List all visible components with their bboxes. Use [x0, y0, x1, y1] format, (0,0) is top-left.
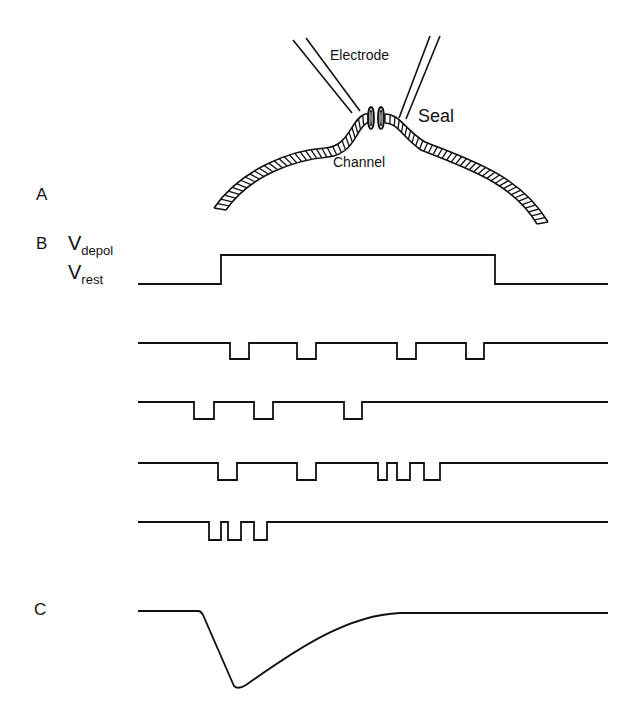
membrane-hatch-line	[241, 180, 251, 184]
membrane-hatch-line	[245, 177, 255, 182]
membrane-hatch-line	[259, 168, 268, 174]
membrane-hatch-line	[398, 120, 399, 129]
membrane-hatch-line	[487, 172, 495, 178]
v-depol-main: V	[68, 232, 81, 254]
membrane-hatch-line	[250, 174, 260, 179]
membrane-hatch-line	[474, 165, 481, 172]
membrane-hatch-line	[534, 218, 545, 220]
membrane-hatch-line	[217, 204, 229, 206]
membrane-hatch-line	[478, 167, 486, 174]
membrane-hatch-line	[284, 157, 292, 165]
channel-trace-4	[138, 522, 608, 540]
channel-trace-2	[138, 402, 608, 419]
membrane-hatch-line	[447, 153, 452, 161]
membrane-hatch-line	[394, 117, 395, 126]
membrane-hatch-line	[300, 152, 307, 160]
membrane-hatch-line	[228, 191, 239, 194]
electrode-label: Electrode	[330, 48, 389, 62]
membrane-hatch-line	[358, 119, 360, 130]
membrane-hatch-line	[522, 201, 532, 205]
membrane-hatch-line	[236, 184, 247, 188]
membrane-hatch-line	[433, 147, 437, 155]
membrane-hatch-line	[269, 163, 278, 170]
membrane-hatch-line	[438, 149, 443, 157]
membrane-hatch-line	[322, 148, 327, 157]
membrane-hatch-line	[254, 171, 263, 177]
panel-a-label: A	[36, 186, 47, 203]
ensemble-current-trace	[138, 611, 608, 688]
membrane-hatch-line	[504, 184, 513, 189]
membrane-hatch-line	[529, 209, 539, 212]
membrane-hatch-line	[525, 205, 535, 208]
membrane-hatch-line	[316, 149, 321, 158]
membrane-hatch-line	[346, 137, 349, 147]
membrane-hatch-line	[363, 115, 364, 125]
membrane-hatch-line	[424, 143, 428, 151]
v-depol-sub: depol	[81, 243, 113, 258]
membrane-hatch-line	[483, 170, 491, 176]
membrane-hatch-line	[352, 127, 355, 138]
membrane-hatch-line	[460, 159, 466, 166]
channel-label: Channel	[333, 155, 385, 169]
membrane-hatch-line	[469, 163, 476, 170]
membrane-hatch-line	[537, 222, 548, 224]
membrane-hatch-line	[499, 181, 508, 186]
voltage-step-trace	[138, 255, 608, 284]
membrane-hatch-line	[274, 161, 282, 168]
membrane-hatch-line	[451, 155, 457, 163]
membrane-hatch-line	[305, 151, 311, 160]
v-rest-sub: rest	[81, 272, 103, 287]
membrane-hatch-line	[355, 123, 358, 134]
v-depol-label: Vdepol	[68, 233, 113, 253]
membrane-hatch-line	[408, 131, 410, 140]
membrane-hatch-line	[511, 190, 521, 194]
panel-b-label: B	[36, 235, 47, 252]
membrane-hatch-line	[214, 208, 226, 210]
membrane-hatch-line	[507, 187, 516, 192]
membrane-hatch-line	[224, 195, 235, 198]
membrane-hatch-line	[338, 144, 342, 153]
membrane-hatch-line	[342, 141, 346, 150]
membrane-hatch-line	[420, 141, 423, 149]
channel-protein-left-inner	[370, 110, 372, 126]
membrane-hatch-line	[456, 157, 462, 164]
patch-clamp-figure	[0, 0, 634, 726]
membrane-hatch-line	[491, 175, 499, 181]
membrane-hatch-line	[402, 123, 404, 132]
membrane-hatch-line	[405, 127, 407, 136]
membrane-hatch-line	[532, 213, 543, 216]
membrane-hatch-line	[327, 148, 332, 157]
membrane-hatch-line	[515, 194, 525, 198]
membrane-hatch-line	[465, 161, 472, 168]
panel-a-drawing	[214, 36, 548, 224]
v-rest-main: V	[68, 261, 81, 283]
channel-protein-right-inner	[380, 110, 382, 126]
membrane-hatch-line	[279, 159, 287, 166]
membrane-hatch-line	[519, 197, 529, 201]
membrane-hatch-line	[495, 178, 504, 184]
membrane-hatch-line	[295, 153, 302, 161]
channel-trace-3	[138, 463, 608, 480]
membrane-hatch-line	[412, 134, 415, 142]
v-rest-label: Vrest	[68, 262, 103, 282]
membrane-hatch-line	[416, 138, 419, 146]
membrane-hatch-line	[349, 132, 352, 142]
membrane-hatch-line	[289, 155, 296, 163]
membrane-hatch-line	[264, 166, 273, 172]
membrane-hatch-line	[311, 150, 317, 159]
seal-label: Seal	[418, 107, 454, 125]
single-channel-traces	[138, 343, 608, 540]
channel-trace-1	[138, 343, 608, 359]
membrane-hatch-line	[442, 151, 447, 159]
panel-c-label: C	[34, 601, 46, 618]
membrane-hatch-line	[428, 145, 432, 153]
membrane-hatch-line	[232, 187, 243, 191]
membrane-hatch-line	[221, 199, 233, 202]
